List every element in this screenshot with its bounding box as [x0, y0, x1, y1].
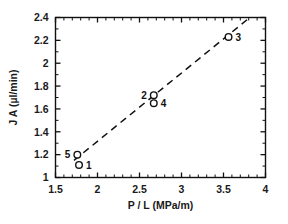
- x-tick-label: 3.5: [216, 183, 231, 195]
- y-tick-label: 1.8: [34, 80, 49, 92]
- y-tick-label: 2.4: [34, 11, 49, 23]
- x-tick-label: 3: [179, 183, 185, 195]
- data-point-marker[interactable]: [76, 162, 83, 169]
- y-tick-label: 2.2: [34, 34, 49, 46]
- x-tick-label: 2: [95, 183, 101, 195]
- data-point-label: 2: [141, 90, 147, 101]
- y-tick-label: 1.6: [34, 103, 49, 115]
- x-tick-label: 2.5: [132, 183, 147, 195]
- data-point-label: 5: [65, 149, 71, 160]
- data-point-marker[interactable]: [225, 34, 232, 41]
- figure-container: 1.522.533.5411.21.41.61.822.22.451243P /…: [0, 0, 288, 224]
- y-tick-label: 1.4: [34, 126, 49, 138]
- scatter-plot: 1.522.533.5411.21.41.61.822.22.451243P /…: [0, 0, 288, 224]
- data-point-marker[interactable]: [150, 92, 157, 99]
- y-tick-label: 1.2: [34, 148, 49, 160]
- x-tick-label: 1.5: [48, 183, 63, 195]
- y-tick-label: 1: [43, 171, 49, 183]
- x-tick-label: 4: [263, 183, 269, 195]
- trendline: [74, 20, 247, 161]
- data-point-marker[interactable]: [150, 100, 157, 107]
- y-tick-label: 2: [43, 57, 49, 69]
- y-axis-title: J A (µl/min): [7, 69, 19, 125]
- data-point-marker[interactable]: [74, 151, 81, 158]
- data-point-label: 1: [86, 160, 92, 171]
- x-axis-title: P / L (MPa/m): [128, 199, 194, 211]
- data-point-label: 4: [161, 98, 167, 109]
- data-point-label: 3: [236, 32, 242, 43]
